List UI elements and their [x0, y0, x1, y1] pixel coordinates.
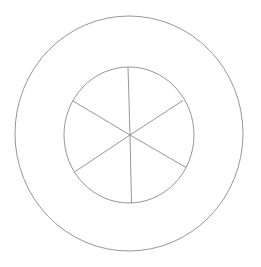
spoke-upper-right [130, 101, 183, 136]
spokes-group [73, 68, 186, 204]
spoke-upper-left [73, 101, 130, 135]
outer-circle [15, 16, 243, 251]
spoke-top [128, 68, 130, 136]
concentric-circles-diagram [0, 0, 261, 267]
spoke-bottom [130, 135, 132, 203]
spoke-lower-left [75, 135, 131, 172]
diagram-canvas [0, 0, 261, 267]
spoke-lower-right [130, 135, 186, 168]
